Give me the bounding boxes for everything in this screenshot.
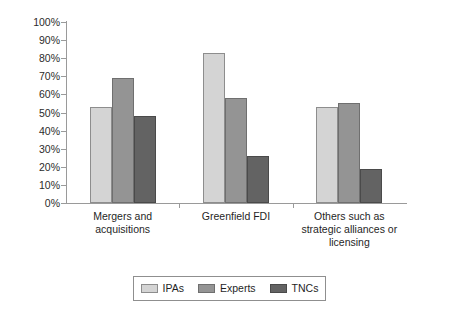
bar-chart: 0%10%20%30%40%50%60%70%80%90%100% Merger… <box>0 0 452 315</box>
y-axis-tick-label: 100% <box>8 17 60 27</box>
bar-tncs-0 <box>134 116 156 203</box>
legend-swatch-icon <box>141 284 158 293</box>
bar-ipas-2 <box>316 107 338 203</box>
category-label-0: Mergers andacquisitions <box>66 210 179 236</box>
y-axis-tick-label: 90% <box>8 35 60 45</box>
y-axis-tick <box>61 185 66 186</box>
y-axis-tick-label: 0% <box>8 198 60 208</box>
bar-group <box>203 22 269 203</box>
y-axis-tick <box>61 167 66 168</box>
y-axis-tick <box>61 131 66 132</box>
y-axis-tick <box>61 58 66 59</box>
legend-label: Experts <box>220 283 256 294</box>
legend-label: TNCs <box>292 283 319 294</box>
x-axis-line <box>66 203 407 204</box>
bar-experts-2 <box>338 103 360 203</box>
category-label-line: licensing <box>293 236 406 249</box>
legend-label: IPAs <box>163 283 184 294</box>
y-axis-tick-label: 30% <box>8 144 60 154</box>
y-axis-tick <box>61 94 66 95</box>
legend-item-tncs: TNCs <box>270 283 319 294</box>
category-label-2: Others such asstrategic alliances orlice… <box>293 210 406 249</box>
x-axis-tick <box>293 203 294 208</box>
y-axis-tick-label: 20% <box>8 162 60 172</box>
y-axis-tick <box>61 22 66 23</box>
category-label-line: Others such as <box>293 210 406 223</box>
y-axis-tick-label: 40% <box>8 126 60 136</box>
x-axis-tick <box>179 203 180 208</box>
bar-group <box>316 22 382 203</box>
legend-swatch-icon <box>270 284 287 293</box>
category-label-line: strategic alliances or <box>293 223 406 236</box>
bar-tncs-2 <box>360 169 382 203</box>
y-axis-tick-label: 50% <box>8 108 60 118</box>
y-axis-tick-label: 10% <box>8 180 60 190</box>
legend-item-ipas: IPAs <box>141 283 184 294</box>
y-axis-tick-label: 80% <box>8 53 60 63</box>
plot-area <box>66 22 406 203</box>
bar-group <box>90 22 156 203</box>
y-axis-tick <box>61 113 66 114</box>
y-axis-tick-label: 70% <box>8 71 60 81</box>
y-axis-tick <box>61 203 66 204</box>
category-label-line: Greenfield FDI <box>179 210 292 223</box>
category-label-line: acquisitions <box>66 223 179 236</box>
y-axis-tick <box>61 149 66 150</box>
bar-experts-0 <box>112 78 134 203</box>
bar-tncs-1 <box>247 156 269 203</box>
bar-ipas-0 <box>90 107 112 203</box>
legend-item-experts: Experts <box>198 283 256 294</box>
y-axis-labels: 0%10%20%30%40%50%60%70%80%90%100% <box>0 0 60 315</box>
bar-ipas-1 <box>203 53 225 203</box>
y-axis-tick <box>61 76 66 77</box>
legend-swatch-icon <box>198 284 215 293</box>
y-axis-tick <box>61 40 66 41</box>
chart-legend: IPAsExpertsTNCs <box>133 276 326 301</box>
category-label-1: Greenfield FDI <box>179 210 292 223</box>
bar-experts-1 <box>225 98 247 203</box>
y-axis-tick-label: 60% <box>8 89 60 99</box>
category-label-line: Mergers and <box>66 210 179 223</box>
